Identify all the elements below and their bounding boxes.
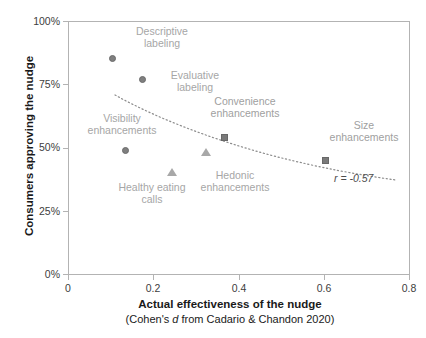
x-tick-mark-0 [68,275,69,280]
y-tick-label-25: 25% [14,206,60,217]
x-tick-mark-0.4 [239,275,240,280]
scatter-chart: Consumers approving the nudge 100% 75% 5… [0,0,426,338]
x-axis-subtitle-suffix: from Cadario & Chandon 2020) [178,313,334,325]
x-tick-label-0.6: 0.6 [304,283,344,294]
data-point-convenience-enhancements [221,134,228,141]
point-label-line1: Convenience [190,96,300,108]
x-axis-subtitle-prefix: (Cohen's [126,313,173,325]
point-label-line1: Descriptive [118,26,206,38]
data-point-visibility-enhancements [122,147,129,154]
x-tick-label-0: 0 [48,283,88,294]
x-tick-label-0.4: 0.4 [219,283,259,294]
point-label-line1: Visibility [70,113,174,125]
point-label-hedonic-enhancements: Hedonic enhancements [186,170,284,193]
point-label-line2: labeling [118,38,206,50]
x-tick-mark-0.2 [153,275,154,280]
point-label-descriptive-labeling: Descriptive labeling [118,26,206,49]
point-label-line1: Size [312,120,416,132]
y-tick-label-75: 75% [14,79,60,90]
point-label-convenience-enhancements: Convenience enhancements [190,96,300,119]
point-label-size-enhancements: Size enhancements [312,120,416,143]
point-label-evaluative-labeling: Evaluative labeling [152,70,238,93]
data-point-size-enhancements [322,157,329,164]
point-label-line2: labeling [152,82,238,94]
x-axis-subtitle: (Cohen's d from Cadario & Chandon 2020) [40,313,420,326]
data-point-hedonic-enhancements [201,148,211,156]
point-label-line1: Evaluative [152,70,238,82]
data-point-healthy-eating-calls [167,168,177,176]
point-label-line2: enhancements [70,125,174,137]
data-point-descriptive-labeling [109,55,116,62]
y-tick-label-100: 100% [14,16,60,27]
point-label-line2: calls [104,194,200,206]
point-label-visibility-enhancements: Visibility enhancements [70,113,174,136]
y-tick-label-50: 50% [14,142,60,153]
x-tick-label-0.8: 0.8 [389,283,426,294]
x-tick-mark-0.8 [409,275,410,280]
correlation-annotation: r = -0.57 [334,172,373,184]
point-label-line2: enhancements [312,132,416,144]
point-label-line2: enhancements [190,108,300,120]
x-axis-title: Actual effectiveness of the nudge [40,298,420,311]
x-tick-label-0.2: 0.2 [133,283,173,294]
data-point-evaluative-labeling [139,76,146,83]
point-label-line1: Hedonic [186,170,284,182]
x-tick-mark-0.6 [324,275,325,280]
plot-area [68,21,410,275]
y-tick-label-0: 0% [14,269,60,280]
point-label-line2: enhancements [186,182,284,194]
